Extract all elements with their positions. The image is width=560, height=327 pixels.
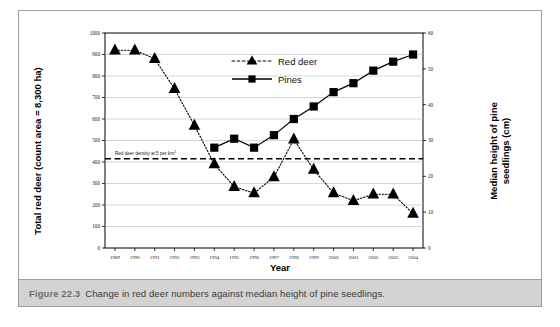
y-axis-left-tick-label: 400 xyxy=(92,159,100,165)
x-axis-tick-label: 1995 xyxy=(229,255,240,260)
legend-item-pines: Pines xyxy=(232,74,302,85)
data-point-marker-square xyxy=(290,115,298,123)
red-deer-pines-chart: Total red deer (count area = 8,300 ha) M… xyxy=(19,11,541,279)
x-axis-tick-label: 1993 xyxy=(189,255,200,260)
y-axis-left-tick-label: 600 xyxy=(92,116,100,122)
chart-canvas: Total red deer (count area = 8,300 ha) M… xyxy=(19,11,541,279)
y-axis-left-tick-label: 900 xyxy=(92,51,100,57)
x-axis-tick-label: 2004 xyxy=(408,255,419,260)
x-axis-tick-label: 1998 xyxy=(289,255,300,260)
legend-marker-square xyxy=(248,75,255,82)
figure-caption-text: Change in red deer numbers against media… xyxy=(85,288,385,299)
y-axis-right-title: Median height of pine seedlings (cm) xyxy=(488,102,511,200)
reference-line-group: Red deer density at 5 per km 2 xyxy=(105,150,423,159)
x-axis-tick-label: 1989 xyxy=(110,255,121,260)
x-axis-tick-label: 1992 xyxy=(170,255,181,260)
y-axis-left-tick-label: 100 xyxy=(92,223,100,229)
data-point-marker-triangle xyxy=(109,43,121,54)
y-axis-right-ticks: 0102030405060 xyxy=(423,30,434,251)
reference-line-label-superscript: 2 xyxy=(174,150,176,154)
legend-item-red-deer: Red deer xyxy=(232,56,317,67)
data-point-marker-square xyxy=(230,135,238,143)
data-point-marker-triangle xyxy=(149,52,161,63)
x-axis-tick-label: 1999 xyxy=(309,255,320,260)
data-point-marker-triangle xyxy=(268,170,280,181)
x-axis-tick-label: 1997 xyxy=(269,255,280,260)
y-axis-left-title: Total red deer (count area = 8,300 ha) xyxy=(32,67,43,234)
x-axis-tick-label: 2003 xyxy=(388,255,399,260)
y-axis-right-tick-label: 60 xyxy=(428,30,434,36)
figure-caption-bar: Figure 22.3Change in red deer numbers ag… xyxy=(19,279,541,306)
svg-text:seedlings (cm): seedlings (cm) xyxy=(500,118,511,185)
data-point-marker-square xyxy=(210,144,218,152)
x-axis-tick-label: 1994 xyxy=(209,255,220,260)
legend-label-pines: Pines xyxy=(278,74,302,85)
data-point-marker-triangle xyxy=(129,43,141,54)
y-axis-left-tick-label: 800 xyxy=(92,73,100,79)
y-axis-left-ticks: 01002003004005006007008009001000 xyxy=(90,30,105,251)
reference-line-label: Red deer density at 5 per km xyxy=(115,151,174,156)
chart-legend: Red deer Pines xyxy=(232,56,317,85)
y-axis-right-tick-label: 50 xyxy=(428,66,434,72)
figure-root: Total red deer (count area = 8,300 ha) M… xyxy=(0,0,560,327)
data-point-marker-square xyxy=(310,102,318,110)
figure-caption: Figure 22.3Change in red deer numbers ag… xyxy=(29,288,385,299)
data-point-marker-square xyxy=(349,79,357,87)
figure-card: Total red deer (count area = 8,300 ha) M… xyxy=(18,10,542,307)
y-axis-left-tick-label: 700 xyxy=(92,94,100,100)
x-axis-tick-label: 1996 xyxy=(249,255,260,260)
y-axis-right-tick-label: 10 xyxy=(428,209,434,215)
y-axis-left-tick-label: 1000 xyxy=(90,30,101,36)
data-point-marker-square xyxy=(329,88,337,96)
x-axis-tick-label: 1991 xyxy=(150,255,161,260)
svg-text:Median height of pine: Median height of pine xyxy=(488,102,499,200)
data-point-marker-triangle xyxy=(387,187,399,198)
x-axis-tick-label: 2000 xyxy=(329,255,340,260)
legend-label-red-deer: Red deer xyxy=(278,56,317,67)
y-axis-right-tick-label: 30 xyxy=(428,137,434,143)
y-axis-left-tick-label: 200 xyxy=(92,202,100,208)
x-axis-tick-label: 2001 xyxy=(348,255,359,260)
y-axis-right-tick-label: 40 xyxy=(428,102,434,108)
data-point-marker-square xyxy=(250,144,258,152)
x-axis-ticks: 1989199019911992199319941995199619971998… xyxy=(110,248,419,260)
data-point-marker-square xyxy=(270,131,278,139)
y-axis-left-tick-label: 500 xyxy=(92,137,100,143)
y-axis-left-tick-label: 0 xyxy=(97,245,100,251)
data-point-marker-triangle xyxy=(407,207,419,218)
data-point-marker-square xyxy=(409,50,417,58)
data-point-marker-triangle xyxy=(368,187,380,198)
legend-marker-triangle xyxy=(247,56,258,65)
data-point-marker-triangle xyxy=(288,133,300,144)
x-axis-title: Year xyxy=(270,262,290,273)
data-point-marker-square xyxy=(389,58,397,66)
data-point-marker-triangle xyxy=(189,119,201,130)
x-axis-tick-label: 1990 xyxy=(130,255,141,260)
y-axis-right-tick-label: 0 xyxy=(428,245,431,251)
y-axis-left-tick-label: 300 xyxy=(92,180,100,186)
data-point-marker-square xyxy=(369,67,377,75)
figure-caption-label: Figure 22.3 xyxy=(29,288,80,299)
y-axis-right-tick-label: 20 xyxy=(428,173,434,179)
x-axis-tick-label: 2002 xyxy=(368,255,379,260)
gridlines xyxy=(105,55,423,227)
